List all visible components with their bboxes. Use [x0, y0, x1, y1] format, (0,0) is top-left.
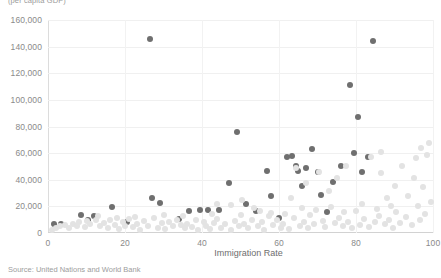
gridline-horizontal	[48, 180, 433, 181]
scatter-point-highlighted	[157, 200, 163, 206]
scatter-point-background	[388, 203, 394, 209]
plot-area: 020,00040,00060,00080,000100,000120,0001…	[48, 20, 433, 233]
x-axis-tick-label: 100	[426, 238, 440, 248]
scatter-point-background	[293, 165, 299, 171]
gridline-horizontal	[48, 153, 433, 154]
scatter-point-background	[390, 225, 396, 231]
scatter-point-background	[341, 209, 347, 215]
scatter-point-background	[134, 221, 140, 227]
scatter-point-highlighted	[149, 195, 155, 201]
scatter-point-background	[301, 219, 307, 225]
scatter-point-background	[145, 223, 151, 229]
y-axis-tick-label: 60,000	[15, 148, 42, 158]
scatter-point-background	[299, 205, 305, 211]
scatter-point-background	[316, 169, 322, 175]
x-axis-tick-label: 60	[274, 238, 284, 248]
scatter-point-background	[397, 220, 403, 226]
scatter-point-background	[349, 225, 355, 231]
scatter-point-background	[343, 163, 349, 169]
scatter-point-highlighted	[303, 165, 309, 171]
scatter-point-background	[105, 225, 111, 231]
scatter-point-highlighted	[359, 169, 365, 175]
scatter-point-background	[238, 212, 244, 218]
scatter-point-background	[114, 215, 120, 221]
scatter-point-background	[228, 202, 234, 208]
scatter-point-background	[422, 211, 428, 217]
scatter-point-highlighted	[355, 114, 361, 120]
scatter-point-highlighted	[289, 153, 295, 159]
gridline-horizontal	[48, 127, 433, 128]
scatter-point-highlighted	[147, 36, 153, 42]
scatter-point-background	[313, 207, 319, 213]
scatter-point-background	[386, 217, 392, 223]
scatter-point-background	[403, 214, 409, 220]
scatter-point-background	[368, 154, 374, 160]
scatter-point-background	[328, 204, 334, 210]
scatter-point-background	[336, 215, 342, 221]
y-axis-tick-label: 80,000	[15, 122, 42, 132]
scatter-point-background	[245, 225, 251, 231]
scatter-point-highlighted	[268, 193, 274, 199]
scatter-point-background	[393, 209, 399, 215]
scatter-point-highlighted	[324, 209, 330, 215]
scatter-point-background	[409, 222, 415, 228]
scatter-point-background	[305, 225, 311, 231]
scatter-point-background	[214, 216, 220, 222]
scatter-point-background	[372, 219, 378, 225]
scatter-point-background	[280, 221, 286, 227]
y-axis-tick-label: 20,000	[15, 201, 42, 211]
scatter-chart-figure: (per capita GDP) 020,00040,00060,00080,0…	[0, 0, 441, 278]
y-axis-tick-label: 0	[37, 228, 42, 238]
scatter-point-background	[303, 180, 309, 186]
gridline-vertical	[279, 20, 280, 233]
scatter-point-background	[268, 210, 274, 216]
scatter-point-background	[259, 219, 265, 225]
x-axis-tick-label: 80	[351, 238, 361, 248]
gridline-vertical	[202, 20, 203, 233]
scatter-point-background	[405, 193, 411, 199]
x-axis-tick-label: 0	[46, 238, 51, 248]
scatter-point-background	[87, 221, 93, 227]
scatter-point-background	[424, 152, 430, 158]
scatter-point-background	[161, 212, 167, 218]
scatter-point-background	[428, 199, 434, 205]
scatter-point-background	[195, 227, 201, 233]
scatter-point-highlighted	[264, 168, 270, 174]
scatter-point-background	[132, 214, 138, 220]
scatter-point-highlighted	[78, 212, 84, 218]
x-axis-line	[48, 232, 433, 233]
scatter-point-background	[399, 163, 405, 169]
scatter-point-background	[378, 149, 384, 155]
scatter-point-background	[282, 211, 288, 217]
gridline-horizontal	[48, 20, 433, 21]
source-note: Source: United Nations and World Bank	[8, 265, 140, 274]
y-axis-tick-label: 100,000	[11, 95, 42, 105]
scatter-point-background	[107, 217, 113, 223]
scatter-point-background	[214, 201, 220, 207]
scatter-point-background	[291, 215, 297, 221]
gridline-vertical	[356, 20, 357, 233]
scatter-point-background	[261, 227, 267, 233]
scatter-point-background	[340, 223, 346, 229]
scatter-point-background	[193, 217, 199, 223]
scatter-point-highlighted	[234, 129, 240, 135]
scatter-point-background	[95, 213, 101, 219]
scatter-point-background	[374, 206, 380, 212]
scatter-point-background	[418, 145, 424, 151]
scatter-point-background	[357, 222, 363, 228]
scatter-point-background	[359, 201, 365, 207]
scatter-point-background	[311, 221, 317, 227]
scatter-point-background	[209, 211, 215, 217]
scatter-point-background	[137, 227, 143, 233]
scatter-point-background	[180, 213, 186, 219]
gridline-horizontal	[48, 47, 433, 48]
scatter-point-background	[326, 188, 332, 194]
scatter-point-background	[353, 208, 359, 214]
scatter-point-background	[251, 205, 257, 211]
scatter-point-highlighted	[216, 207, 222, 213]
scatter-point-background	[376, 213, 382, 219]
scatter-point-background	[417, 217, 423, 223]
scatter-point-background	[207, 226, 213, 232]
scatter-point-highlighted	[309, 146, 315, 152]
scatter-point-background	[392, 183, 398, 189]
